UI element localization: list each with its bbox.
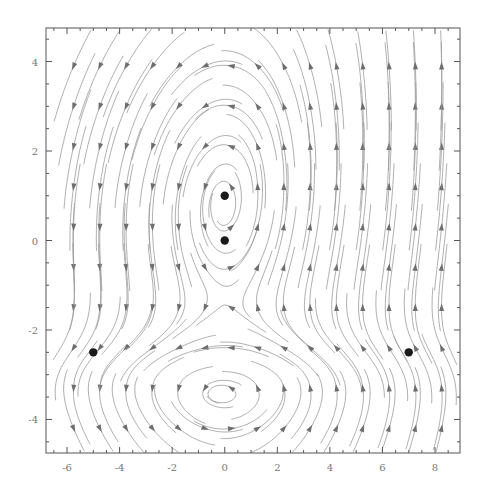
arrowhead bbox=[72, 102, 77, 110]
streamline bbox=[115, 94, 147, 208]
arrowhead bbox=[175, 344, 183, 350]
streamline bbox=[336, 245, 358, 357]
streamline bbox=[178, 367, 213, 424]
streamline bbox=[78, 243, 101, 357]
arrowhead bbox=[387, 384, 392, 392]
y-tick-label: -4 bbox=[28, 414, 38, 425]
arrowhead bbox=[98, 183, 103, 191]
arrowhead bbox=[413, 102, 418, 110]
streamline bbox=[222, 372, 259, 420]
arrowhead bbox=[202, 102, 210, 108]
arrowhead bbox=[96, 424, 102, 432]
streamline bbox=[221, 51, 283, 112]
arrowhead bbox=[282, 62, 288, 70]
arrowhead bbox=[387, 344, 393, 352]
arrowhead bbox=[124, 304, 129, 312]
streamline bbox=[308, 348, 337, 443]
streamline bbox=[276, 207, 296, 326]
streamline bbox=[152, 358, 184, 433]
arrowhead bbox=[228, 305, 236, 311]
fixed-point bbox=[221, 236, 229, 244]
x-tick-label: -6 bbox=[62, 462, 72, 473]
arrowhead bbox=[227, 266, 235, 271]
streamline bbox=[211, 172, 242, 231]
streamline bbox=[386, 31, 392, 131]
arrowhead bbox=[308, 102, 313, 110]
streamline bbox=[283, 247, 311, 349]
arrowhead bbox=[440, 344, 445, 352]
streamline bbox=[231, 164, 262, 270]
streamline bbox=[150, 44, 215, 106]
arrowhead bbox=[72, 143, 77, 151]
arrowhead bbox=[439, 62, 444, 70]
arrowhead bbox=[309, 62, 314, 70]
arrowhead bbox=[281, 183, 286, 191]
arrowhead bbox=[308, 183, 313, 191]
streamline bbox=[53, 243, 74, 360]
arrowhead bbox=[333, 425, 338, 433]
x-tick-label: -2 bbox=[167, 462, 177, 473]
streamline bbox=[438, 204, 448, 331]
y-tick-label: 2 bbox=[32, 146, 38, 157]
arrowhead bbox=[360, 223, 365, 231]
arrowhead bbox=[439, 223, 444, 231]
arrowhead bbox=[176, 102, 183, 110]
streamline bbox=[100, 345, 127, 442]
streamline bbox=[140, 98, 177, 207]
arrowhead bbox=[413, 62, 418, 70]
arrowhead bbox=[72, 183, 77, 191]
y-tick-label: -2 bbox=[28, 325, 38, 336]
y-tick-label: 4 bbox=[32, 57, 38, 68]
arrowhead bbox=[256, 304, 261, 312]
streamline bbox=[412, 204, 423, 331]
arrowhead bbox=[308, 384, 313, 392]
arrowhead bbox=[98, 143, 103, 151]
streamline bbox=[347, 293, 385, 397]
streamline bbox=[194, 409, 267, 429]
arrowhead bbox=[98, 62, 104, 70]
arrowhead bbox=[360, 142, 365, 150]
streamlines bbox=[53, 28, 457, 452]
arrowhead bbox=[413, 384, 418, 392]
arrowhead bbox=[254, 223, 259, 231]
streamline bbox=[422, 334, 442, 450]
streamline bbox=[326, 163, 341, 289]
x-tick-label: 4 bbox=[327, 462, 333, 473]
arrowhead bbox=[308, 303, 313, 311]
arrowhead bbox=[177, 384, 182, 392]
y-axis-ticks: -4-2024 bbox=[28, 39, 460, 442]
fixed-points bbox=[89, 192, 413, 357]
streamline bbox=[254, 28, 302, 122]
arrowhead bbox=[72, 62, 77, 70]
streamline bbox=[194, 65, 265, 90]
arrowhead bbox=[228, 426, 236, 431]
streamline bbox=[328, 29, 344, 129]
arrowhead bbox=[413, 344, 419, 352]
streamline bbox=[126, 244, 154, 350]
arrowhead bbox=[386, 263, 391, 271]
arrowhead bbox=[254, 347, 262, 352]
streamline bbox=[280, 354, 311, 439]
arrowhead bbox=[439, 142, 444, 150]
arrowhead bbox=[227, 145, 235, 150]
streamline bbox=[190, 210, 239, 286]
arrowhead bbox=[203, 304, 208, 312]
arrowhead bbox=[151, 143, 156, 151]
arrowhead bbox=[124, 385, 129, 393]
arrowhead bbox=[177, 142, 183, 150]
arrowhead bbox=[283, 102, 288, 110]
arrowhead bbox=[306, 425, 312, 433]
streamline bbox=[59, 53, 96, 165]
streamline bbox=[337, 344, 364, 447]
arrowhead bbox=[204, 183, 209, 191]
arrowhead bbox=[386, 424, 391, 432]
arrowhead bbox=[175, 424, 183, 431]
arrowhead bbox=[280, 346, 288, 352]
arrowhead bbox=[227, 224, 234, 231]
arrowhead bbox=[281, 263, 286, 271]
arrowhead bbox=[281, 223, 286, 231]
arrowhead bbox=[439, 384, 444, 392]
streamline bbox=[442, 244, 457, 365]
arrowhead bbox=[412, 263, 417, 271]
arrowhead bbox=[255, 103, 261, 111]
